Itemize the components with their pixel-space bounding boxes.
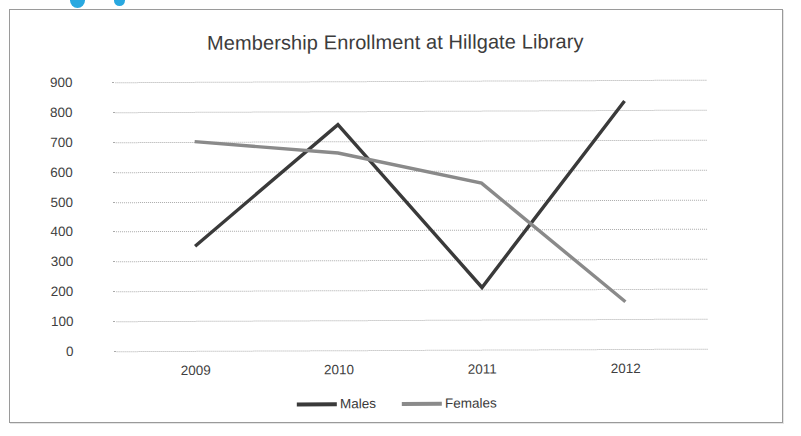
y-axis-tick-label: 200 [13,284,73,299]
y-axis-tick-label: 300 [13,254,73,269]
legend-swatch-icon [402,401,442,405]
y-axis-tick-label: 500 [13,194,73,209]
legend-item-females[interactable]: Females [402,396,497,411]
chart-title: Membership Enrollment at Hillgate Librar… [9,29,781,55]
y-axis-tick-label: 800 [13,105,73,120]
y-axis-tick-label: 0 [14,344,74,359]
y-axis: 9008007006005004003002001000 [9,9,781,12]
series-lines [112,80,707,352]
scan-artifacts-strip [0,0,801,9]
series-line-males [194,101,625,289]
blue-dot-icon [114,0,125,6]
blue-dot-icon [70,0,85,8]
y-axis-tick-label: 700 [13,135,73,150]
legend-item-males[interactable]: Males [297,396,376,411]
plot-area [112,80,707,352]
y-axis-tick-label: 600 [13,165,73,180]
y-axis-tick-label: 900 [12,75,72,90]
y-axis-tick-label: 100 [13,314,73,329]
chart-canvas: Membership Enrollment at Hillgate Librar… [9,9,783,423]
legend-swatch-icon [297,402,337,406]
legend-label: Males [340,396,376,411]
x-axis-tick-label: 2011 [447,361,517,376]
x-axis-tick-label: 2009 [161,363,231,378]
y-axis-tick-label: 400 [13,224,73,239]
chart-frame: Membership Enrollment at Hillgate Librar… [9,9,783,423]
x-axis-tick-label: 2012 [591,361,661,376]
x-axis: 2009201020112012 [9,9,781,12]
series-line-females [195,140,626,304]
legend-label: Females [445,396,497,411]
chart-legend: MalesFemales [11,394,783,412]
x-axis-tick-label: 2010 [304,362,374,377]
